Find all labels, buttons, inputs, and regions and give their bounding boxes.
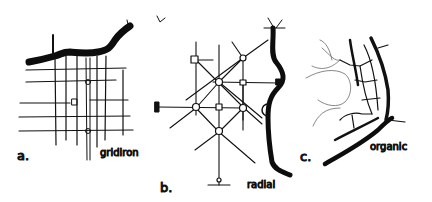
panel-gridiron: a. gridiron xyxy=(17,20,139,163)
panel-letter-b: b. xyxy=(160,180,172,195)
street-patterns-diagram: a. gridiron xyxy=(0,0,432,202)
panel-label-radial: radial xyxy=(247,179,275,190)
panel-organic: c. organic xyxy=(300,38,407,164)
river-radial xyxy=(268,28,290,175)
panel-label-organic: organic xyxy=(370,141,407,152)
panel-radial: b. radial xyxy=(155,16,290,195)
panel-letter-c: c. xyxy=(300,149,311,164)
river-gridiron xyxy=(29,26,130,62)
panel-letter-a: a. xyxy=(17,148,29,163)
panel-label-gridiron: gridiron xyxy=(100,147,139,158)
